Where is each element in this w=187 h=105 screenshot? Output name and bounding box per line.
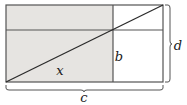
geometry-figure: x b c d (0, 0, 187, 105)
figure-canvas: x b c d (0, 0, 187, 105)
label-d: d (174, 38, 182, 53)
label-c: c (80, 90, 88, 105)
label-b: b (115, 49, 123, 64)
label-x: x (56, 63, 64, 78)
shaded-region-top-left (6, 5, 113, 30)
d-brace (165, 5, 172, 82)
